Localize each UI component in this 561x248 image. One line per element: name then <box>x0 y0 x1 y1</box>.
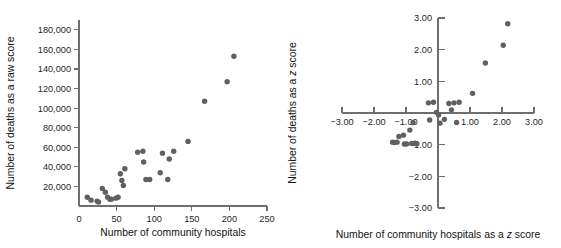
data-point <box>122 166 127 171</box>
data-point <box>501 43 506 48</box>
y-tick-label: 100,000 <box>38 104 71 114</box>
y-tick-label: −3.00 <box>409 203 432 213</box>
y-tick-label: 3.00 <box>414 13 432 23</box>
data-point <box>427 117 432 122</box>
x-axis-title-part1: Number of community hospitals as a <box>336 229 507 240</box>
data-point <box>470 91 475 96</box>
x-axis-title: Number of community hospitals as a z sco… <box>336 229 541 240</box>
data-point <box>401 132 406 137</box>
chart-right-points <box>390 21 511 147</box>
x-axis-title-part2: score <box>512 229 541 240</box>
y-tick-label: 2.00 <box>414 45 432 55</box>
data-point <box>505 21 510 26</box>
data-point <box>140 148 145 153</box>
x-axis-title: Number of community hospitals <box>100 227 246 238</box>
y-axis-title: Number of deaths as a z score <box>287 42 298 184</box>
y-tick-label: 40,000 <box>43 162 71 172</box>
data-point <box>410 120 415 125</box>
data-point <box>437 120 442 125</box>
x-tick-label: 200 <box>222 214 237 224</box>
data-point <box>121 183 126 188</box>
data-point <box>185 139 190 144</box>
data-point <box>451 100 456 105</box>
data-point <box>109 196 114 201</box>
data-point <box>483 60 488 65</box>
y-tick-label: −2.00 <box>409 172 432 182</box>
data-point <box>118 171 123 176</box>
data-point <box>167 156 172 161</box>
data-point <box>96 199 101 204</box>
x-tick-label: 0 <box>76 214 81 224</box>
data-point <box>202 99 207 104</box>
y-tick-label: 20,000 <box>43 182 71 192</box>
chart-left-axes <box>79 20 267 206</box>
data-point <box>158 170 163 175</box>
x-tick-label: 250 <box>259 214 274 224</box>
data-point <box>171 148 176 153</box>
data-point <box>160 150 165 155</box>
x-tick-label: −3.00 <box>330 117 353 127</box>
chart-left-points <box>85 54 237 205</box>
data-point <box>231 54 236 59</box>
data-point <box>394 139 399 144</box>
data-point <box>456 100 461 105</box>
data-point <box>224 79 229 84</box>
data-point <box>103 190 108 195</box>
data-point <box>431 100 436 105</box>
data-point <box>436 112 441 117</box>
y-tick-label: 160,000 <box>38 45 71 55</box>
data-point <box>446 101 451 106</box>
x-tick-label: 1.00 <box>461 117 479 127</box>
data-point <box>442 117 447 122</box>
x-tick-label: 2.00 <box>493 117 511 127</box>
y-tick-label: 180,000 <box>38 25 71 35</box>
y-tick-label: 120,000 <box>38 84 71 94</box>
x-tick-label: −2.00 <box>362 117 385 127</box>
data-point <box>407 127 412 132</box>
y-axis-title-part1: Number of deaths as a <box>287 76 298 184</box>
data-point <box>454 120 459 125</box>
chart-z-score: −3.00−2.00−1.001.002.003.00−3.00−2.00−1.… <box>280 0 561 248</box>
x-tick-label: 50 <box>111 214 121 224</box>
chart-raw-score: 20,00040,00060,00080,000100,000120,00014… <box>0 0 281 248</box>
data-point <box>141 159 146 164</box>
y-tick-label: 60,000 <box>43 143 71 153</box>
data-point <box>119 178 124 183</box>
data-point <box>115 194 120 199</box>
y-axis-title-part2: score <box>287 42 298 71</box>
data-point <box>426 100 431 105</box>
chart-left-ticks: 20,00040,00060,00080,000100,000120,00014… <box>38 25 275 224</box>
data-point <box>165 177 170 182</box>
data-point <box>147 177 152 182</box>
data-point <box>414 141 419 146</box>
data-point <box>404 141 409 146</box>
x-tick-label: 150 <box>184 214 199 224</box>
x-tick-label: 3.00 <box>525 117 543 127</box>
y-tick-label: 80,000 <box>43 123 71 133</box>
y-tick-label: 140,000 <box>38 64 71 74</box>
data-point <box>449 107 454 112</box>
data-point <box>88 197 93 202</box>
y-tick-label: 1.00 <box>414 77 432 87</box>
y-axis-title: Number of deaths as a raw score <box>5 36 16 189</box>
data-point <box>135 149 140 154</box>
figure-container: 20,00040,00060,00080,000100,000120,00014… <box>0 0 561 248</box>
x-tick-label: 100 <box>147 214 162 224</box>
